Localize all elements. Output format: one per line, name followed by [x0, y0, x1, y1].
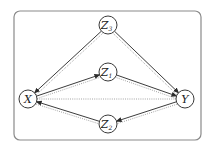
nodes: Z3Z1XYZ2: [19, 16, 194, 133]
arrow-y-to-z2: [117, 102, 177, 121]
node-z2: Z2: [99, 115, 117, 133]
arrow-z3-to-x: [35, 31, 102, 93]
arrow-z2-to-x: [37, 102, 100, 122]
node-x: X: [19, 90, 37, 108]
arrow-z3-to-y: [114, 31, 178, 93]
node-y: Y: [176, 90, 194, 108]
node-z1: Z1: [99, 63, 117, 81]
node-subscript: 3: [108, 25, 112, 32]
node-z3: Z3: [99, 16, 117, 34]
node-label: X: [23, 93, 33, 106]
dotted-edge-x-z2: [36, 104, 99, 124]
causal-diagram: Z3Z1XYZ2: [0, 0, 213, 151]
node-subscript: 1: [108, 72, 112, 79]
dotted-edge-x-z1: [37, 77, 100, 98]
arrow-z1-to-y: [116, 75, 176, 96]
node-subscript: 2: [107, 124, 112, 131]
dotted-edge-x-z3: [36, 33, 103, 95]
dotted-edge-y-z1: [116, 77, 176, 98]
dotted-edge-y-z2: [117, 104, 177, 123]
